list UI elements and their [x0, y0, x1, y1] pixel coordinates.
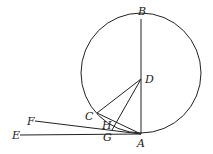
- label-G: G: [103, 131, 112, 144]
- label-B: B: [137, 5, 146, 18]
- geometry-diagram: B D C H G A F E: [0, 0, 213, 154]
- line-DC: [97, 79, 141, 113]
- label-A: A: [136, 137, 145, 150]
- label-F: F: [26, 115, 35, 128]
- label-C: C: [85, 110, 94, 123]
- label-D: D: [144, 73, 154, 86]
- label-E: E: [11, 129, 20, 142]
- line-DH: [112, 79, 141, 130]
- line-EA: [20, 134, 141, 135]
